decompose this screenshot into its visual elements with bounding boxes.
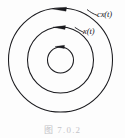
inner-orbit-circle (48, 47, 74, 73)
outer-orbit-label: cx(t) (97, 10, 112, 19)
middle-orbit-label: x(t) (83, 27, 94, 36)
middle-orbit-circle (28, 27, 94, 93)
orbit-diagram (0, 0, 125, 138)
figure-container: cx(t) x(t) 图 7.0.2 (0, 0, 125, 138)
outer-orbit-leader-line (87, 10, 98, 16)
outer-orbit-circle (9, 8, 113, 112)
middle-orbit-arrowhead-icon (53, 26, 66, 30)
figure-caption: 图 7.0.2 (0, 126, 125, 135)
